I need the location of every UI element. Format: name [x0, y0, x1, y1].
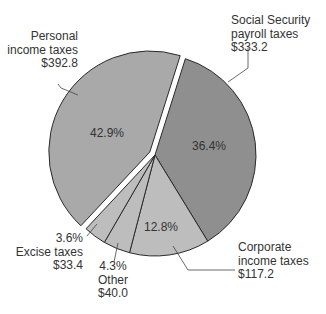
label-corporate: Corporate income taxes $117.2 [238, 241, 309, 282]
pct-personal: 42.9% [90, 126, 124, 140]
pct-corporate: 12.8% [144, 220, 178, 234]
label-other: 4.3% Other $40.0 [93, 260, 133, 301]
label-ss-line2: payroll taxes [231, 28, 310, 42]
label-personal: Personal income taxes $392.8 [7, 30, 78, 71]
label-personal-value: $392.8 [7, 57, 78, 71]
pct-social-security: 36.4% [192, 139, 226, 153]
label-excise: 3.6% Excise taxes $33.4 [16, 232, 83, 273]
label-personal-line2: income taxes [7, 44, 78, 58]
label-personal-line1: Personal [7, 30, 78, 44]
label-corp-value: $117.2 [238, 268, 309, 282]
label-ss-line1: Social Security [231, 14, 310, 28]
label-other-pct: 4.3% [93, 260, 133, 274]
label-corp-line2: income taxes [238, 255, 309, 269]
label-social-security: Social Security payroll taxes $333.2 [231, 14, 310, 55]
label-ss-value: $333.2 [231, 41, 310, 55]
label-corp-line1: Corporate [238, 241, 309, 255]
label-excise-value: $33.4 [16, 259, 83, 273]
label-other-value: $40.0 [93, 287, 133, 301]
label-excise-pct: 3.6% [16, 232, 83, 246]
label-other-line1: Other [93, 274, 133, 288]
label-excise-line1: Excise taxes [16, 246, 83, 260]
